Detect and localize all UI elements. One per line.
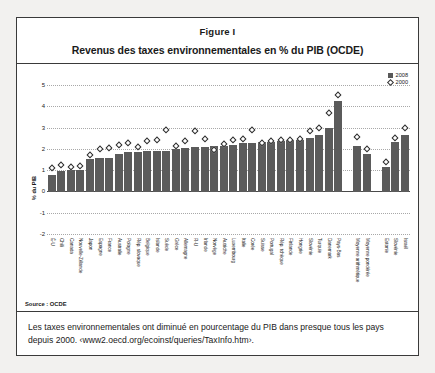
x-axis-tick-label: Moyenne arithmétique — [355, 238, 360, 282]
x-axis-tick-label: Suède — [164, 238, 169, 251]
x-axis-tick-label: Portugal — [269, 238, 274, 255]
x-axis-tick-label: France — [107, 238, 112, 252]
x-axis-tick-label: Belgique — [145, 238, 150, 255]
x-label-slot: Islande — [152, 237, 162, 301]
bar-2008 — [239, 143, 247, 192]
bar-slot — [47, 86, 57, 235]
bar-slot — [247, 86, 257, 235]
x-label-slot: Slovénie — [391, 237, 401, 301]
bar-2008 — [401, 135, 409, 192]
marker-2000 — [364, 145, 370, 151]
marker-2000 — [354, 133, 360, 139]
y-tick-label: 5 — [35, 82, 45, 88]
x-label-slot: Pays-Bas — [333, 237, 343, 301]
bar-slot — [353, 86, 363, 235]
x-axis-tick-label: Italie — [240, 238, 245, 247]
bar-slot — [85, 86, 95, 235]
source-note: Source : OCDE — [25, 301, 67, 307]
legend-item-2008: 2008 — [388, 72, 408, 79]
bar-2008 — [67, 170, 75, 192]
bar-2008 — [391, 142, 399, 193]
x-axis-tick-label: Chili — [59, 238, 64, 247]
bar-slot — [171, 86, 181, 235]
bar-2008 — [153, 151, 161, 193]
x-axis-tick-label: Irlande — [202, 238, 207, 252]
x-label-slot: Irlande — [200, 237, 210, 301]
bar-2008 — [181, 148, 189, 193]
x-label-slot: Suède — [162, 237, 172, 301]
marker-2000 — [249, 126, 255, 132]
marker-2000 — [239, 136, 245, 142]
x-axis-tick-label: Finlande — [288, 238, 293, 255]
bar-slot — [276, 86, 286, 235]
marker-2000 — [154, 136, 160, 142]
bar-slot — [200, 86, 210, 235]
bar-slot — [228, 86, 238, 235]
marker-2000 — [335, 91, 341, 97]
bar-2008 — [306, 138, 314, 192]
marker-2000 — [58, 162, 64, 168]
x-axis-tick-label: Suisse — [259, 238, 264, 251]
chart-legend: 2008 2000 — [388, 72, 408, 86]
figure-caption: Les taxes environnementales ont diminué … — [17, 312, 418, 355]
bar-gap — [372, 86, 382, 235]
bar-slot — [267, 86, 277, 235]
x-axis-tick-label: Moyenne pondérée — [364, 238, 369, 277]
y-tick-label: -2 — [35, 231, 45, 237]
bar-2008 — [229, 145, 237, 193]
bar-2008 — [48, 175, 56, 192]
bar-2008 — [76, 170, 84, 192]
bar-2008 — [325, 128, 333, 193]
legend-bar-swatch-icon — [388, 73, 393, 78]
x-label-slot: Chili — [57, 237, 67, 301]
x-label-slot: Allemagne — [181, 237, 191, 301]
bar-2008 — [220, 146, 228, 193]
x-axis-labels: É-UChiliCanadaNouvelle-ZélandeJaponEspag… — [47, 237, 410, 301]
bar-2008 — [124, 152, 132, 192]
bar-2008 — [134, 152, 142, 192]
x-axis-tick-label: Pologne — [126, 238, 131, 255]
bar-slot — [162, 86, 172, 235]
x-axis-tick-label: Allemagne — [183, 238, 188, 259]
x-label-slot: Japon — [85, 237, 95, 301]
bar-2008 — [95, 158, 103, 192]
marker-2000 — [182, 137, 188, 143]
x-axis-tick-label: Islande — [154, 238, 159, 252]
bar-2008 — [172, 149, 180, 193]
x-label-slot: Norvège — [209, 237, 219, 301]
bar-2008 — [162, 151, 170, 193]
bar-slot — [362, 86, 372, 235]
marker-2000 — [106, 144, 112, 150]
x-label-slot: Belgique — [142, 237, 152, 301]
bar-slot — [238, 86, 248, 235]
x-label-slot: É-U — [47, 237, 57, 301]
marker-2000 — [49, 165, 55, 171]
bar-slot — [400, 86, 410, 235]
x-axis-tick-label: Rép. tchèque — [278, 238, 283, 265]
x-label-slot: Australie — [114, 237, 124, 301]
bar-2008 — [191, 147, 199, 192]
marker-2000 — [402, 124, 408, 130]
x-axis-tick-label: Rép. slovaque — [135, 238, 140, 267]
bar-slot — [324, 86, 334, 235]
figure-title-block: Figure I Revenus des taxes environnement… — [17, 18, 418, 64]
figure-screenshot: Figure I Revenus des taxes environnement… — [0, 0, 435, 373]
marker-2000 — [125, 139, 131, 145]
x-axis-tick-label: Japon — [87, 238, 92, 250]
x-axis-tick-label: Luxembourg — [231, 238, 236, 263]
bar-slot — [76, 86, 86, 235]
marker-2000 — [96, 146, 102, 152]
marker-2000 — [201, 136, 207, 142]
marker-2000 — [230, 136, 236, 142]
bar-2008 — [296, 140, 304, 193]
x-label-slot: Rép. tchèque — [276, 237, 286, 301]
x-label-slot: Canada — [66, 237, 76, 301]
x-label-slot: Israël — [400, 237, 410, 301]
x-label-slot: Rép. slovaque — [133, 237, 143, 301]
marker-2000 — [68, 163, 74, 169]
bar-slot — [133, 86, 143, 235]
chart-panel: 2008 2000 % du PIB 543210-1-2 É-UChiliCa… — [17, 64, 418, 312]
marker-2000 — [325, 109, 331, 115]
marker-2000 — [163, 126, 169, 132]
bar-slot — [95, 86, 105, 235]
